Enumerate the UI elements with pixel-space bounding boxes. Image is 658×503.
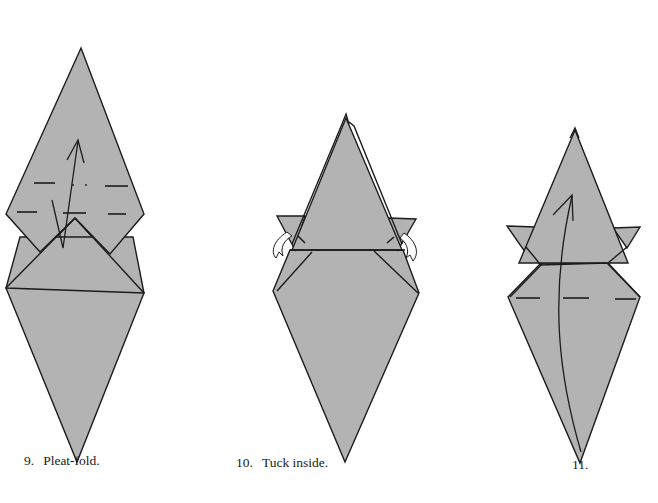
step-11-lower-kite xyxy=(508,263,640,463)
step-11-top-cone xyxy=(519,130,628,263)
step-11-diagram xyxy=(0,0,658,503)
step-11-caption: 11. xyxy=(572,457,597,473)
step-number: 11. xyxy=(572,457,588,472)
